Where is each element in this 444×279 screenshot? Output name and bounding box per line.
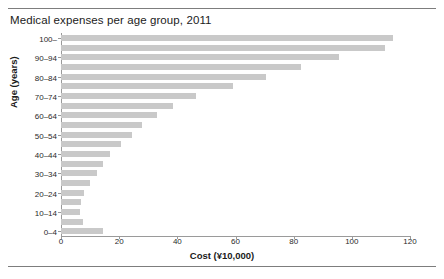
y-tick-mark <box>58 96 61 97</box>
bar-80-84 <box>61 74 266 80</box>
bar <box>61 141 121 147</box>
bar <box>61 64 301 70</box>
bar-series <box>61 33 410 236</box>
y-tick-label: 90–94 <box>35 54 57 63</box>
bar <box>61 112 157 118</box>
chart-page: Medical expenses per age group, 2011 0–4… <box>0 0 444 279</box>
y-tick-label: 30–34 <box>35 170 57 179</box>
x-tick-label: 120 <box>403 237 416 246</box>
bar <box>61 45 385 51</box>
bar-95-99 <box>61 45 385 51</box>
y-tick-label: 80–84 <box>35 74 57 83</box>
y-tick-label: 20–24 <box>35 190 57 199</box>
bar-20-24 <box>61 190 84 196</box>
bar-25-29 <box>61 180 90 186</box>
top-divider <box>8 8 436 9</box>
y-tick-mark <box>58 231 61 232</box>
bar <box>61 83 233 89</box>
y-tick-mark <box>58 135 61 136</box>
bar-60-64 <box>61 112 157 118</box>
y-tick-label: 0–4 <box>44 228 57 237</box>
bottom-divider <box>8 266 436 267</box>
bar <box>61 161 103 167</box>
y-tick-label: 60–64 <box>35 112 57 121</box>
chart-title: Medical expenses per age group, 2011 <box>10 14 212 26</box>
plot-area: 0–410–1420–2430–3440–4450–5460–6470–7480… <box>61 33 410 236</box>
y-tick-mark <box>58 77 61 78</box>
bar-0-4 <box>61 228 103 234</box>
y-tick-mark <box>58 57 61 58</box>
y-tick-label: 10–14 <box>35 209 57 218</box>
bar <box>61 209 80 215</box>
x-tick-label: 0 <box>59 237 63 246</box>
bar <box>61 151 110 157</box>
bar-5-9 <box>61 219 83 225</box>
y-tick-label: 50–54 <box>35 132 57 141</box>
bar <box>61 190 84 196</box>
x-axis-label: Cost (¥10,000) <box>0 250 444 261</box>
x-tick-label: 20 <box>115 237 124 246</box>
bar <box>61 228 103 234</box>
bar <box>61 74 266 80</box>
bar <box>61 199 81 205</box>
bar <box>61 54 339 60</box>
bar-75-79 <box>61 83 233 89</box>
bar-100- <box>61 35 393 41</box>
bar-35-39 <box>61 161 103 167</box>
x-tick-label: 60 <box>231 237 240 246</box>
bar-55-59 <box>61 122 142 128</box>
bar-85-89 <box>61 64 301 70</box>
bar-10-14 <box>61 209 80 215</box>
y-tick-label: 100– <box>39 35 57 44</box>
bar-65-69 <box>61 103 173 109</box>
bar-45-49 <box>61 141 121 147</box>
y-tick-mark <box>58 173 61 174</box>
bar-50-54 <box>61 132 132 138</box>
y-axis-label: Age (years) <box>8 56 19 108</box>
bar <box>61 219 83 225</box>
x-tick-label: 40 <box>173 237 182 246</box>
y-tick-label: 70–74 <box>35 93 57 102</box>
bar-40-44 <box>61 151 110 157</box>
y-tick-mark <box>58 154 61 155</box>
bar <box>61 170 97 176</box>
y-tick-mark <box>58 38 61 39</box>
bar-70-74 <box>61 93 196 99</box>
bar-15-19 <box>61 199 81 205</box>
bar <box>61 35 393 41</box>
bar-30-34 <box>61 170 97 176</box>
y-tick-mark <box>58 212 61 213</box>
bar <box>61 132 132 138</box>
bar <box>61 122 142 128</box>
y-tick-mark <box>58 193 61 194</box>
bar <box>61 180 90 186</box>
bar <box>61 103 173 109</box>
y-tick-mark <box>58 115 61 116</box>
y-tick-label: 40–44 <box>35 151 57 160</box>
bar-90-94 <box>61 54 339 60</box>
bar <box>61 93 196 99</box>
x-tick-label: 100 <box>345 237 358 246</box>
x-tick-label: 80 <box>289 237 298 246</box>
